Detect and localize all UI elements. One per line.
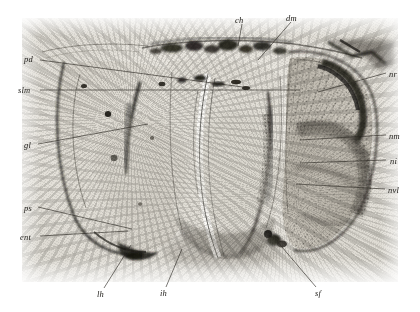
label-nr: nr <box>389 70 397 79</box>
label-ni: ni <box>390 157 397 166</box>
label-dm: dm <box>286 14 297 23</box>
micrograph-plate <box>22 18 398 282</box>
label-ih: ih <box>160 289 167 298</box>
label-lh: lh <box>97 290 104 299</box>
label-pd: pd <box>24 55 33 64</box>
label-ps: ps <box>24 204 32 213</box>
label-nvl: nvl <box>388 186 399 195</box>
label-nm: nm <box>389 132 400 141</box>
label-gl: gl <box>24 141 31 150</box>
tissue-section-drawing <box>22 18 398 282</box>
label-slm: slm <box>18 86 30 95</box>
label-ent: ent <box>20 233 31 242</box>
label-ch: ch <box>235 16 243 25</box>
label-sf: sf <box>315 289 321 298</box>
figure-root: chdmpdslmglpsentnrnmninvllhihsf <box>0 0 420 312</box>
